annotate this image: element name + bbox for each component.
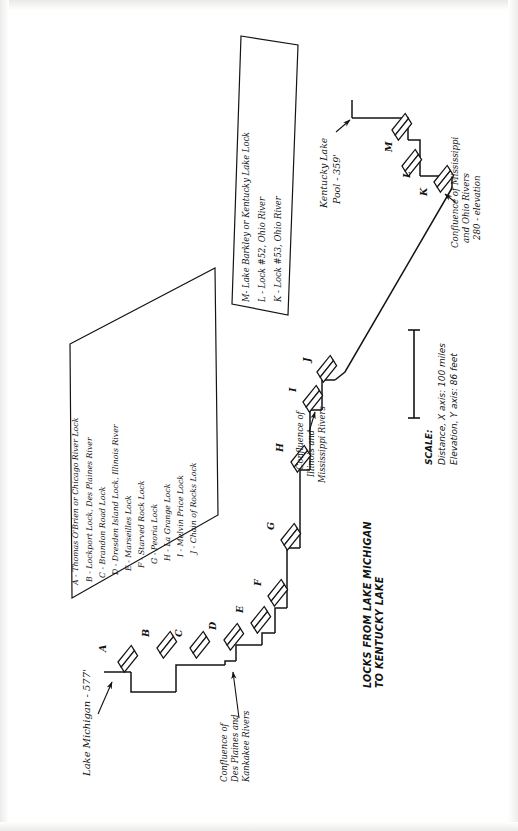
confluence-illinois-line2: Illinois and	[306, 429, 316, 478]
diagram-title: LOCKS FROM LAKE MICHIGAN TO KENTUCKY LAK…	[362, 521, 385, 688]
scale-text-block: SCALE: Distance, X axis: 100 miles Eleva…	[424, 343, 459, 465]
lock-label-H: H	[274, 442, 285, 453]
legend-lower-item-3: D - Dresden Island Lock, Illinois River	[111, 423, 120, 576]
confluence-desplaines-line1: Confluence of	[219, 721, 229, 782]
confluence-illinois-line1: Confluence of	[295, 409, 305, 470]
confluence-ohio-line2: and Ohio Rivers	[461, 173, 471, 243]
lock-label-L: L	[401, 171, 412, 179]
legend-lower-item-1: B - Lockport Lock, Des Plaines River	[85, 436, 94, 583]
legend-lower-item-4: E - Marseilles Lock	[124, 495, 133, 572]
legend-lower-item-9: J - Chain of Rocks Lock	[189, 462, 198, 556]
legend-lower-item-0: A - Thomas O'Brien or Chicago River Lock	[71, 417, 80, 586]
kentucky-lake-line2: Pool - 359'	[331, 154, 342, 205]
lock-label-F: F	[252, 578, 263, 587]
annotation-confluence-ohio: Confluence of Mississippi and Ohio River…	[445, 136, 482, 248]
legend-lower-box: A - Thomas O'Brien or Chicago River Lock…	[70, 268, 218, 598]
legend-upper-item-0: M- Lake Barkley or Kentucky Lake Lock	[241, 132, 251, 303]
kentucky-lake-line1: Kentucky Lake	[318, 137, 329, 209]
elevation-profile-line	[104, 100, 452, 692]
scale-heading: SCALE:	[424, 429, 434, 465]
lock-label-D: D	[207, 621, 218, 631]
confluence-ohio-line1: Confluence of Mississippi	[450, 136, 460, 248]
annotation-lake-michigan: Lake Michigan - 577'	[81, 669, 112, 777]
title-line-1: LOCKS FROM LAKE MICHIGAN	[362, 521, 373, 688]
legend-upper-item-1: L - Lock #52, Ohio River	[257, 196, 267, 303]
lock-label-I: I	[287, 387, 298, 393]
confluence-illinois-line3: Mississippi Rivers	[317, 405, 327, 484]
legend-lower-item-7: H - La Grange Lock	[163, 483, 172, 562]
lock-label-A: A	[97, 645, 108, 653]
confluence-desplaines-line3: Kankakee Rivers	[241, 710, 251, 783]
lock-symbol-C	[186, 631, 213, 658]
lock-label-B: B	[140, 629, 151, 638]
diagram-canvas: M- Lake Barkley or Kentucky Lake Lock L …	[0, 0, 518, 831]
lock-label-E: E	[234, 605, 245, 614]
scale-line-y: Elevation, Y axis: 86 feet	[449, 353, 459, 465]
scale-line-x: Distance, X axis: 100 miles	[437, 343, 447, 465]
scale-bar	[408, 330, 420, 418]
diagram-page: M- Lake Barkley or Kentucky Lake Lock L …	[0, 0, 518, 831]
lock-label-J: J	[301, 357, 312, 364]
lock-symbol-A	[114, 645, 141, 672]
lock-symbol-E	[247, 606, 274, 633]
confluence-ohio-line3: 280 - elevation	[472, 175, 482, 241]
lock-symbol-D	[220, 623, 247, 650]
legend-lower-item-6: G - Peoria Lock	[150, 503, 159, 564]
legend-lower-item-8: I - Melvin Price Lock	[176, 475, 185, 558]
annotation-confluence-des-plaines: Confluence of Des Plaines and Kankakee R…	[219, 672, 251, 783]
legend-upper-item-2: K - Lock #53, Ohio River	[273, 195, 283, 303]
confluence-desplaines-line2: Des Plaines and	[230, 714, 240, 783]
lock-label-C: C	[173, 629, 184, 637]
lock-label-K: K	[418, 187, 429, 197]
lock-label-M: M	[383, 141, 394, 153]
legend-upper-box: M- Lake Barkley or Kentucky Lake Lock L …	[232, 36, 298, 315]
legend-lower-item-5: F - Starved Rock Lock	[137, 480, 146, 569]
annotation-kentucky-lake: Kentucky Lake Pool - 359'	[318, 120, 350, 209]
title-line-2: TO KENTUCKY LAKE	[374, 576, 385, 688]
legend-lower-item-2: C - Brandon Road Lock	[98, 486, 107, 578]
lock-label-G: G	[265, 522, 276, 530]
lake-michigan-label: Lake Michigan - 577'	[81, 669, 92, 777]
